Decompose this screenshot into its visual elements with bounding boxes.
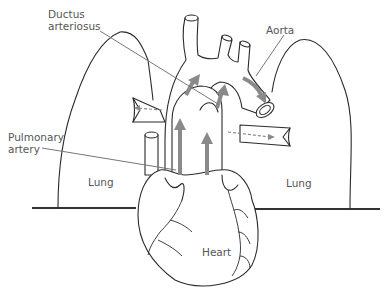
heart bbox=[138, 170, 258, 286]
right-pulmonary-branch bbox=[240, 125, 290, 146]
label-heart: Heart bbox=[202, 246, 231, 258]
label-lung-right: Lung bbox=[286, 177, 312, 189]
leader-aorta bbox=[256, 35, 284, 76]
label-lung-left: Lung bbox=[88, 176, 114, 188]
label-pulmonary-line2: artery bbox=[8, 143, 64, 155]
label-ductus-line2: arteriosus bbox=[48, 20, 101, 32]
label-pulmonary-artery: Pulmonary artery bbox=[8, 131, 64, 155]
label-pulmonary-line1: Pulmonary bbox=[8, 131, 64, 143]
label-ductus-arteriosus: Ductus arteriosus bbox=[48, 8, 101, 32]
label-aorta: Aorta bbox=[266, 24, 294, 36]
superior-vena-cava bbox=[145, 135, 158, 175]
label-ductus-line1: Ductus bbox=[48, 8, 101, 20]
